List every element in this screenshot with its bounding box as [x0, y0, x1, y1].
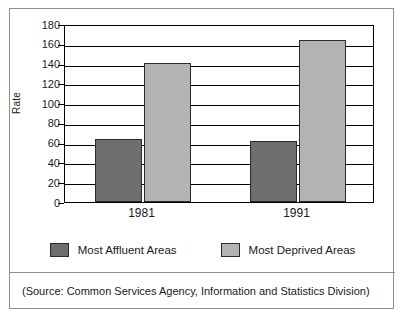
y-axis-tick-mark [58, 45, 64, 46]
legend-item: Most Affluent Areas [50, 243, 177, 257]
source-note: (Source: Common Services Agency, Informa… [10, 284, 370, 298]
y-tick-label: 160 [24, 38, 60, 51]
y-axis-tick-mark [58, 25, 64, 26]
y-axis-tick-mark [58, 183, 64, 184]
legend-label: Most Affluent Areas [78, 243, 177, 257]
y-tick-label: 0 [24, 197, 60, 210]
y-tick-label: 140 [24, 58, 60, 71]
plot-area [64, 25, 374, 203]
bar [144, 63, 191, 202]
chart-legend: Most Affluent AreasMost Deprived Areas [10, 233, 395, 267]
legend-label: Most Deprived Areas [249, 243, 356, 257]
y-tick-label: 20 [24, 177, 60, 190]
y-axis-tick-mark [58, 124, 64, 125]
x-axis-tick-labels: 19811991 [64, 205, 374, 221]
bar [299, 40, 346, 202]
legend-item: Most Deprived Areas [221, 243, 356, 257]
bar-series-group [65, 26, 373, 202]
y-tick-label: 80 [24, 117, 60, 130]
y-axis-tick-mark [58, 203, 64, 204]
x-tick-label: 1981 [64, 205, 219, 221]
plot-block: Rate 020406080100120140160180 19811991 [10, 9, 395, 221]
y-tick-label: 180 [24, 19, 60, 32]
y-axis-tick-mark [58, 163, 64, 164]
y-tick-label: 40 [24, 157, 60, 170]
y-tick-label: 60 [24, 137, 60, 150]
legend-swatch [50, 243, 69, 257]
bar [95, 139, 142, 202]
y-axis-tick-mark [58, 84, 64, 85]
source-bar: (Source: Common Services Agency, Informa… [10, 272, 395, 308]
y-axis-tick-mark [58, 144, 64, 145]
chart-figure: Rate 020406080100120140160180 19811991 M… [9, 8, 394, 309]
y-axis-tick-mark [58, 65, 64, 66]
legend-swatch [221, 243, 240, 257]
y-axis-tick-labels: 020406080100120140160180 [24, 25, 60, 203]
y-axis-tick-mark [58, 104, 64, 105]
y-tick-label: 100 [24, 98, 60, 111]
y-tick-label: 120 [24, 78, 60, 91]
bar [250, 141, 297, 202]
x-tick-label: 1991 [219, 205, 374, 221]
